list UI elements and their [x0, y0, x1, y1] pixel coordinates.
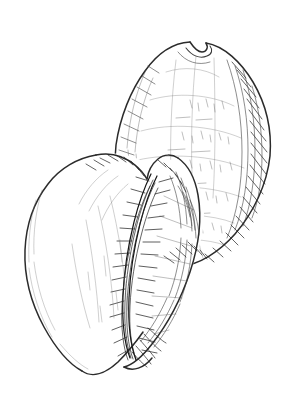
- shell-illustration: [0, 0, 293, 408]
- shell-drawing-canvas: [0, 0, 293, 408]
